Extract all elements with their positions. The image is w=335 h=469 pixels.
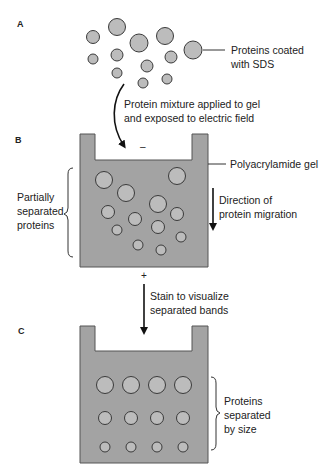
callout-sds-line2: with SDS bbox=[230, 58, 274, 70]
transition-bc-line1: Stain to visualize bbox=[150, 290, 229, 302]
protein-band bbox=[126, 442, 136, 452]
transition-bc-line2: separated bands bbox=[150, 304, 228, 316]
protein-circle bbox=[176, 232, 186, 242]
panel-label-c: C bbox=[18, 326, 25, 336]
protein-circle bbox=[138, 78, 148, 88]
protein-circle bbox=[156, 245, 166, 255]
callout-sds-line1: Proteins coated bbox=[231, 44, 304, 56]
protein-circle bbox=[112, 225, 122, 235]
protein-band bbox=[178, 442, 188, 452]
panel-label-b: B bbox=[15, 135, 22, 145]
bracket-c-line2: separated bbox=[224, 409, 271, 421]
protein-circle bbox=[152, 221, 165, 234]
protein-band bbox=[123, 377, 140, 394]
bracket-b-line3: proteins bbox=[17, 219, 54, 231]
protein-band bbox=[99, 412, 112, 425]
protein-band bbox=[151, 412, 164, 425]
protein-circle bbox=[87, 31, 100, 44]
bracket-b-line2: separated bbox=[17, 205, 64, 217]
protein-circle bbox=[165, 51, 177, 63]
curved-arrow-icon bbox=[114, 84, 124, 146]
protein-band bbox=[125, 412, 138, 425]
bracket-b-line1: Partially bbox=[17, 191, 55, 203]
protein-circle bbox=[118, 185, 135, 202]
bracket-c bbox=[211, 377, 220, 450]
protein-band bbox=[100, 442, 110, 452]
bracket-b bbox=[64, 168, 73, 257]
protein-circle bbox=[150, 196, 167, 213]
protein-band bbox=[97, 377, 114, 394]
protein-circle bbox=[184, 41, 202, 59]
protein-circle bbox=[111, 49, 123, 61]
gel-label: Polyacrylamide gel bbox=[230, 158, 318, 170]
migration-line1: Direction of bbox=[219, 194, 272, 206]
protein-circle bbox=[130, 34, 148, 52]
protein-circle bbox=[169, 168, 186, 185]
protein-circle bbox=[157, 28, 174, 45]
panel-label-a: A bbox=[17, 19, 24, 29]
bracket-c-line1: Proteins bbox=[224, 395, 263, 407]
protein-circle bbox=[162, 74, 172, 84]
protein-band bbox=[177, 412, 190, 425]
transition-ab-line2: and exposed to electric field bbox=[124, 112, 254, 124]
gel-c bbox=[80, 326, 208, 463]
bracket-c-line3: by size bbox=[224, 423, 257, 435]
protein-circle bbox=[129, 213, 142, 226]
protein-circle bbox=[96, 172, 113, 189]
protein-circle bbox=[171, 208, 184, 221]
protein-band bbox=[152, 442, 162, 452]
migration-line2: protein migration bbox=[219, 208, 297, 220]
protein-band bbox=[175, 377, 192, 394]
gel-b bbox=[80, 134, 208, 267]
protein-mixture bbox=[87, 19, 203, 89]
positive-electrode-sign: + bbox=[141, 270, 147, 281]
protein-band bbox=[149, 377, 166, 394]
protein-circle bbox=[133, 240, 143, 250]
protein-circle bbox=[112, 68, 122, 78]
protein-circle bbox=[88, 54, 98, 64]
transition-ab-line1: Protein mixture applied to gel bbox=[124, 98, 260, 110]
protein-circle bbox=[109, 19, 126, 36]
negative-electrode-sign: – bbox=[140, 141, 146, 152]
sds-page-diagram: A Proteins coated with SDS Protein mixtu… bbox=[0, 0, 335, 469]
protein-circle bbox=[141, 60, 153, 72]
protein-circle bbox=[102, 206, 115, 219]
